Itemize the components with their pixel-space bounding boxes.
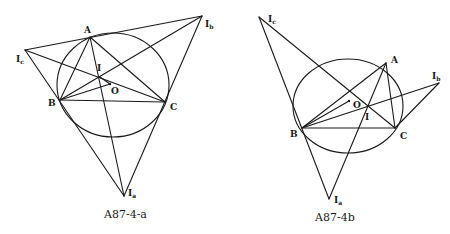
caption-a87-4b: A87-4b xyxy=(314,211,355,224)
figure-a: A B C O I Ia Ib Ic A87-4-a xyxy=(16,16,213,221)
label-b: B xyxy=(48,98,56,108)
line-ib-ia xyxy=(124,16,202,196)
side-ca xyxy=(90,37,165,102)
label-i: I xyxy=(97,63,101,73)
line-ic-ib xyxy=(25,16,202,50)
bisector-b-ib xyxy=(302,83,439,128)
figure-b: A B C O I Ia Ib Ic A87-4b xyxy=(259,14,440,224)
label-c: C xyxy=(400,131,407,141)
label-o: O xyxy=(353,100,361,110)
label-c: C xyxy=(170,102,177,112)
label-b: B xyxy=(290,129,298,139)
label-ib: Ib xyxy=(432,71,440,82)
label-ic: Ic xyxy=(268,14,276,25)
side-ca xyxy=(386,63,395,128)
side-ab xyxy=(302,63,386,128)
side-bc xyxy=(60,100,165,102)
bisector-a-ia xyxy=(90,37,124,196)
label-ic: Ic xyxy=(16,54,24,65)
circumcircle xyxy=(293,59,403,153)
label-a: A xyxy=(390,55,399,65)
caption-a87-4-a: A87-4-a xyxy=(103,208,147,221)
diagram-canvas: A B C O I Ia Ib Ic A87-4-a A B C O I Ia … xyxy=(0,0,450,234)
line-ia-ic xyxy=(25,50,124,196)
label-i: I xyxy=(365,112,369,122)
bisector-a-ia xyxy=(329,63,386,199)
label-o: O xyxy=(111,86,119,96)
label-ib: Ib xyxy=(205,19,213,30)
bisector-b-ib xyxy=(60,16,202,100)
label-ia: Ia xyxy=(334,195,342,206)
label-ia: Ia xyxy=(128,188,136,199)
label-a: A xyxy=(83,25,92,35)
line-ic-ia xyxy=(259,17,329,199)
